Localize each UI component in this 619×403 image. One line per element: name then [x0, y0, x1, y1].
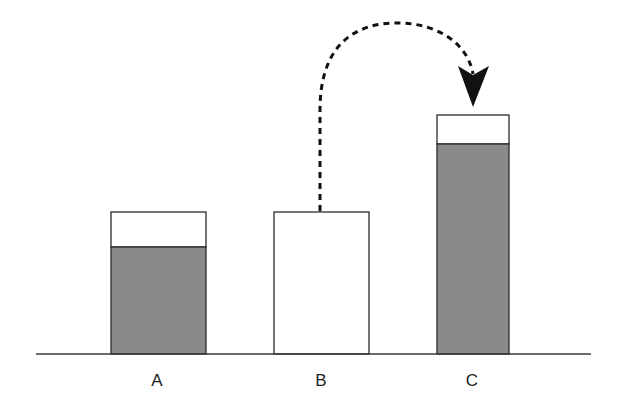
bar-b-empty-portion — [274, 212, 369, 354]
bar-c-filled-portion — [437, 144, 509, 354]
bar-b — [274, 212, 369, 354]
bar-c — [437, 115, 509, 354]
bar-b-label: B — [315, 371, 326, 390]
bar-a-label: A — [151, 371, 163, 390]
bar-transfer-diagram: A B C — [0, 0, 619, 403]
bar-c-label: C — [466, 371, 478, 390]
bar-a-filled-portion — [111, 247, 206, 354]
bar-a-empty-portion — [111, 212, 206, 247]
bar-a — [111, 212, 206, 354]
bar-c-empty-portion — [437, 115, 509, 144]
